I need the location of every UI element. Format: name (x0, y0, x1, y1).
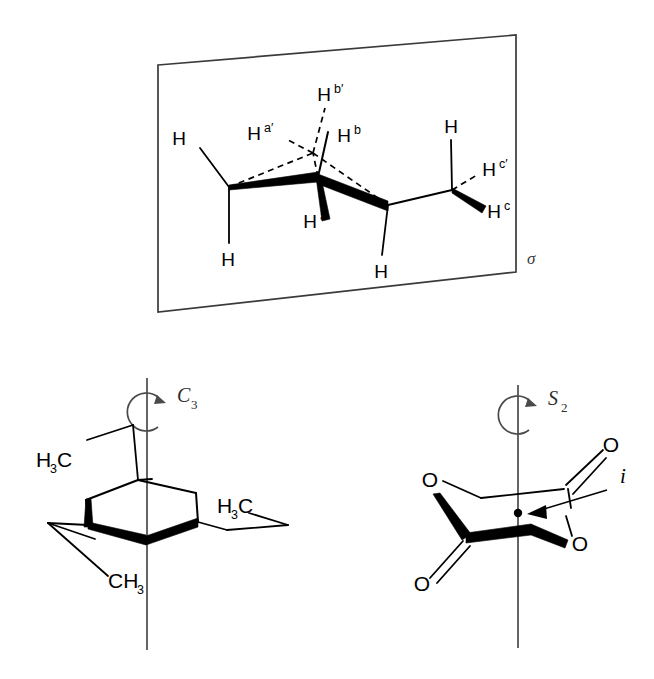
hydrogen-label-h-b-prime: H b′ (317, 82, 344, 105)
label-text: H (172, 128, 186, 149)
c3-axis-panel: C 3 H 3 C H (36, 378, 288, 650)
s2-rotation-arc (498, 396, 529, 434)
c3-axis-label: C 3 (177, 384, 198, 412)
methyl-label-bottom: CH 3 (108, 569, 144, 597)
methyl-label-upper-left: H 3 C (36, 448, 72, 476)
label-text: H (444, 116, 458, 137)
inversion-center-label: i (620, 464, 626, 488)
hydrogen-label-h-c-prime: H c′ (482, 157, 508, 180)
inversion-pointer-arrowhead (527, 505, 547, 519)
ring-bond-front-lower-heavy (88, 522, 146, 545)
methyl-arm-upper-left-b (87, 425, 133, 440)
label-subscript: 3 (137, 583, 144, 597)
bond-junction-ha-prime (288, 140, 313, 153)
bond-junction-hb-prime-upper (313, 108, 325, 153)
hydrogen-label-h-b: H b (337, 123, 361, 146)
label-text: H (221, 249, 235, 270)
s2-axis-panel: S 2 O O O O (414, 385, 626, 648)
label-text: H (374, 261, 388, 282)
ring-bond-front-right-heavy (146, 518, 198, 545)
hydrogen-label-h-left-upper: H (172, 128, 186, 149)
label-superscript: a′ (264, 121, 274, 135)
oxygen-lower-right: O (572, 532, 588, 555)
bond-cc-stub (568, 489, 571, 508)
bond-c4-hc-wedge (452, 188, 486, 213)
symmetry-figure: H H H a′ H b′ H b H a H H H c′ (0, 0, 654, 679)
inversion-center-dot (514, 509, 522, 517)
oxygen-upper-right: O (603, 433, 619, 456)
mirror-plane-panel: H H H a′ H b′ H b H a H H H c′ (158, 35, 536, 312)
bond-c1-h-upper (200, 148, 229, 187)
label-text: H (217, 494, 232, 517)
label-subscript: 3 (231, 508, 238, 522)
label-superscript: b (354, 123, 361, 137)
methyl-label-right: H 3 C (217, 494, 253, 522)
methyl-arm-right-b (227, 525, 288, 530)
bond-c2-c3-wedge (318, 174, 388, 211)
s2-axis-label: S 2 (548, 387, 568, 415)
label-text: H (36, 448, 51, 471)
label-text: CH (108, 569, 138, 592)
hydrogen-label-h-c: H c (487, 199, 510, 222)
label-text: O (572, 532, 588, 555)
hydrogen-label-h-a: H a (303, 209, 327, 232)
label-text: H (337, 125, 351, 146)
bond-oul-ca-heavy (433, 493, 471, 540)
bond-c2-hb (318, 132, 328, 177)
bond-c4-h-upper (451, 140, 452, 190)
hydrogen-label-h-a-prime: H a′ (247, 121, 274, 144)
label-text: H (247, 123, 261, 144)
bond-ca-cd-heavy (466, 524, 531, 543)
label-text: O (414, 572, 430, 595)
oxygen-lower-left: O (414, 572, 430, 595)
label-text: H (487, 201, 501, 222)
label-tail: C (57, 448, 72, 471)
label-superscript: c′ (499, 157, 508, 171)
bond-c3-c4 (388, 190, 452, 205)
label-text: H (482, 159, 496, 180)
bond-c3-h-lower (382, 205, 388, 255)
ring-bond-back-right (196, 493, 198, 522)
s2-label-main: S (548, 387, 558, 409)
label-superscript: c (504, 199, 510, 213)
label-superscript: b′ (334, 82, 344, 96)
label-text: H (303, 211, 317, 232)
mirror-plane-outline (158, 35, 516, 312)
methyl-arm-upper-left-a (133, 425, 138, 480)
ring-bond-back-left (86, 480, 138, 500)
hydrogen-label-h-right-upper: H (444, 116, 458, 137)
label-text: O (422, 468, 438, 491)
hydrogen-label-h-left-lower: H (221, 249, 235, 270)
methyl-arm-upper-left-c (138, 479, 152, 480)
methyl-arm-right-a (198, 522, 227, 530)
label-superscript: a (320, 209, 327, 223)
methyl-arm-right-c (249, 513, 288, 525)
c3-label-sub: 3 (191, 397, 198, 412)
s2-label-sub: 2 (561, 400, 568, 415)
oxygen-upper-left: O (422, 468, 438, 491)
bond-cd-olr-heavy (531, 524, 568, 548)
bond-cb-cc (481, 489, 564, 498)
hydrogen-label-h-mid-lower: H (374, 261, 388, 282)
bond-oul-cb (443, 481, 481, 498)
c3-label-main: C (177, 384, 191, 406)
label-text: H (317, 84, 331, 105)
label-text: O (603, 433, 619, 456)
figure-root: H H H a′ H b′ H b H a H H H c′ (0, 0, 654, 679)
mirror-plane-label: σ (527, 249, 536, 268)
label-subscript: 3 (50, 462, 57, 476)
bond-c4-hc-prime (452, 175, 477, 190)
label-tail: C (238, 494, 253, 517)
